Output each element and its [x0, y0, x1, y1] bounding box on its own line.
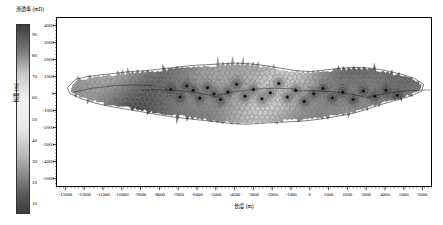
mesh-cell	[135, 105, 140, 110]
x-axis-tick-label: 5000	[399, 192, 409, 197]
plot-area[interactable]	[56, 17, 432, 187]
well-marker[interactable]	[322, 87, 325, 90]
mesh-cell	[337, 66, 341, 72]
mesh-cell	[287, 102, 290, 107]
well-marker[interactable]	[260, 97, 263, 100]
x-axis-tick-label: -4000	[229, 192, 240, 197]
x-axis-tick-label: -7000	[173, 192, 184, 197]
well-marker[interactable]	[331, 96, 334, 99]
mesh-cell	[304, 106, 306, 110]
x-axis-tick-label: -8000	[154, 192, 165, 197]
well-marker[interactable]	[396, 94, 399, 97]
mesh-cell	[88, 75, 92, 80]
y-axis-title: 长度 (m)	[13, 71, 19, 115]
x-axis-tick-label: -3000	[248, 192, 259, 197]
mesh-cell	[263, 92, 264, 94]
mesh-cell	[281, 82, 283, 84]
x-axis-tick-label: -11000	[96, 192, 109, 197]
x-axis-tick-label: 0	[309, 192, 311, 197]
x-axis-tick-label: 1000	[324, 192, 334, 197]
mesh-cell	[267, 93, 269, 95]
mesh-cell	[308, 97, 310, 99]
x-axis-tick-label: -9000	[135, 192, 146, 197]
mesh-cell	[216, 57, 219, 67]
mesh-cell	[253, 119, 258, 123]
well-marker[interactable]	[352, 98, 355, 101]
well-marker[interactable]	[385, 89, 388, 92]
well-marker[interactable]	[286, 96, 289, 99]
well-marker[interactable]	[198, 96, 201, 99]
well-marker[interactable]	[179, 96, 182, 99]
mesh-cell	[189, 89, 191, 90]
x-axis-tick-label: -12000	[77, 192, 91, 197]
reservoir-mesh	[57, 18, 432, 187]
mesh-cell	[116, 70, 120, 76]
mesh-cell	[266, 97, 267, 99]
mesh-cell	[336, 93, 338, 95]
mesh-cell	[240, 57, 244, 67]
figure-root: 渗透率 (mD) 908070605040302010 400030002000…	[0, 0, 443, 225]
x-axis-tick-label: -1000	[285, 192, 296, 197]
mesh-cell	[234, 88, 236, 90]
x-axis-tick-label: -5000	[210, 192, 221, 197]
well-marker[interactable]	[192, 89, 195, 92]
x-axis-tick-labels: -13000-12000-11000-10000-9000-8000-7000-…	[36, 192, 443, 202]
x-axis-tick-label: -10000	[115, 192, 129, 197]
mesh-cell	[365, 79, 370, 84]
well-marker[interactable]	[269, 91, 272, 94]
well-marker[interactable]	[312, 92, 315, 95]
x-axis-tick-label: -6000	[191, 192, 202, 197]
well-marker[interactable]	[169, 88, 172, 91]
well-marker[interactable]	[212, 92, 215, 95]
well-marker[interactable]	[244, 95, 247, 98]
mesh-cell	[176, 114, 180, 124]
mesh-cell	[231, 57, 234, 67]
well-marker[interactable]	[219, 98, 222, 101]
mesh-cell	[390, 89, 392, 91]
x-axis-tick-label: -2000	[267, 192, 278, 197]
well-marker[interactable]	[303, 100, 306, 103]
x-axis-tick-label: 4000	[380, 192, 390, 197]
well-marker[interactable]	[206, 86, 209, 89]
x-axis-tick-label: 2000	[343, 192, 353, 197]
well-marker[interactable]	[235, 83, 238, 86]
x-axis-title: 长度 (m)	[56, 203, 432, 210]
well-marker[interactable]	[362, 90, 365, 93]
well-marker[interactable]	[294, 89, 297, 92]
mesh-cell	[275, 70, 281, 75]
x-axis-tick-label: -13000	[59, 192, 73, 197]
colorbar-title: 渗透率 (mD)	[4, 6, 56, 13]
mesh-cell	[306, 100, 308, 101]
mesh-cell	[231, 85, 233, 87]
well-marker[interactable]	[185, 85, 188, 88]
mesh-cell	[254, 115, 259, 120]
x-axis-tick-label: 6000	[418, 192, 428, 197]
x-axis-tick-label: 3000	[361, 192, 371, 197]
mesh-cell	[71, 88, 76, 94]
well-marker[interactable]	[277, 82, 280, 85]
mesh-cell	[315, 88, 317, 90]
mesh-cell	[392, 94, 394, 96]
